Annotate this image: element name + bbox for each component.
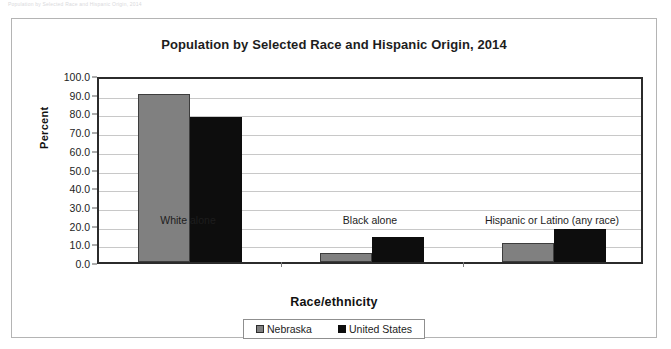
y-axis-tick-mark (92, 151, 97, 152)
legend-swatch-icon (256, 325, 264, 333)
y-axis-tick-mark (92, 226, 97, 227)
x-axis-category-label: Black alone (343, 214, 397, 226)
chart-legend: NebraskaUnited States (243, 319, 425, 339)
y-axis-title: Percent (38, 107, 50, 149)
bar-nebraska (320, 253, 372, 262)
bar-nebraska (138, 94, 190, 262)
legend-item-nebraska: Nebraska (256, 323, 312, 335)
bar-united-states (372, 237, 424, 262)
bar-united-states (554, 229, 606, 262)
category-separator (463, 262, 464, 267)
y-axis-tick-mark (92, 207, 97, 208)
legend-label: United States (349, 323, 412, 335)
legend-swatch-icon (338, 325, 346, 333)
y-axis-tick-mark (92, 114, 97, 115)
y-axis-tick-mark (92, 189, 97, 190)
y-axis-tick-label: 80.0 (70, 108, 90, 120)
y-axis-tick-mark (92, 77, 97, 78)
plot-area (97, 77, 643, 264)
y-axis-tick-label: 20.0 (70, 221, 90, 233)
x-axis-title: Race/ethnicity (12, 295, 656, 309)
y-axis-tick-mark (92, 95, 97, 96)
y-axis-tick-label: 10.0 (70, 239, 90, 251)
y-axis-tick-label: 60.0 (70, 146, 90, 158)
y-axis-tick-label: 50.0 (70, 165, 90, 177)
y-axis-tick-mark (92, 133, 97, 134)
legend-label: Nebraska (267, 323, 312, 335)
bar-united-states (190, 117, 242, 262)
y-axis-tick-label: 30.0 (70, 202, 90, 214)
page-top-note: Population by Selected Race and Hispanic… (8, 0, 142, 8)
y-axis-tick-label: 100.0 (64, 71, 90, 83)
legend-item-united-states: United States (338, 323, 412, 335)
y-axis-tick-mark (92, 245, 97, 246)
plot-wrap: 100.090.080.070.060.050.040.030.020.010.… (97, 77, 643, 264)
y-axis-tick-label: 40.0 (70, 183, 90, 195)
chart-figure-frame: Population by Selected Race and Hispanic… (11, 18, 657, 338)
chart-title: Population by Selected Race and Hispanic… (12, 37, 656, 52)
category-separator (281, 262, 282, 267)
y-axis-tick-mark (92, 264, 97, 265)
y-axis-tick-mark (92, 170, 97, 171)
x-axis-category-label: White alone (160, 214, 215, 226)
bar-nebraska (502, 243, 554, 262)
y-axis-tick-label: 90.0 (70, 90, 90, 102)
x-axis-category-label: Hispanic or Latino (any race) (485, 214, 619, 226)
y-axis-tick-label: 70.0 (70, 127, 90, 139)
y-axis-tick-label: 0.0 (75, 258, 90, 270)
